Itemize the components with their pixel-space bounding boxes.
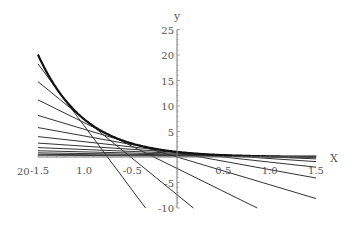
y-tick-label: 20 <box>161 50 174 61</box>
x-tick-label: -1.5 <box>30 165 49 176</box>
x-tick-label: 1.0 <box>262 165 278 176</box>
y-axis-label: y <box>173 10 181 23</box>
plot-area: -1.51.0-0.50.51.01.5252015105-5-10 X y 2… <box>0 0 354 229</box>
x-tick-label: 1.0 <box>76 165 92 176</box>
x-axis-label: X <box>330 152 338 165</box>
y-tick-label: 5 <box>168 127 174 138</box>
x-tick-label: 0.5 <box>215 165 231 176</box>
x-tick-label: 1.5 <box>308 165 324 176</box>
y-tick-label: -5 <box>164 178 174 189</box>
x-tick-label: -0.5 <box>123 165 142 176</box>
y-tick-label: 10 <box>161 101 174 112</box>
y-tick-label: 15 <box>161 76 174 87</box>
y-tick-label: 25 <box>161 25 174 36</box>
y-tick-label: -10 <box>158 203 174 214</box>
axes: -1.51.0-0.50.51.01.5252015105-5-10 <box>30 25 324 215</box>
x-extra-label: 20 <box>17 166 30 177</box>
